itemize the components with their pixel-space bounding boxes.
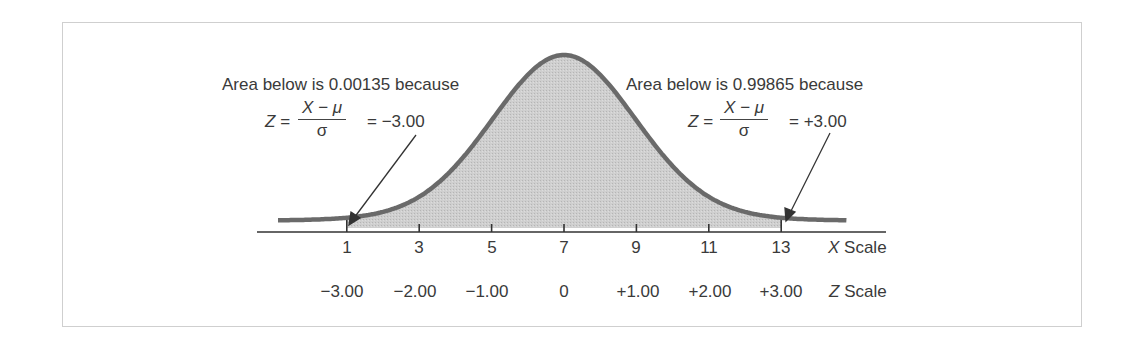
z-tick-label: −2.00 [393, 282, 436, 302]
x-tick-label: 3 [414, 238, 423, 258]
z-scale-title: Z Scale [829, 282, 887, 302]
normal-curve-plot [0, 0, 1147, 351]
x-tick-label: 13 [772, 238, 791, 258]
z-tick-label: +2.00 [688, 282, 731, 302]
z-tick-label: −3.00 [320, 282, 363, 302]
x-scale-var: X [828, 238, 839, 257]
right-z-fraction: X − μ σ [720, 98, 768, 141]
x-tick-label: 11 [700, 238, 718, 258]
z-scale-word: Scale [844, 282, 887, 301]
left-z-lhs: Z = [265, 112, 290, 132]
z-scale-var: Z [829, 282, 839, 301]
z-tick-label: +3.00 [759, 282, 802, 302]
x-tick-label: 1 [342, 238, 351, 258]
right-numerator: X − μ [720, 98, 768, 120]
left-annotation-text: Area below is 0.00135 because [222, 75, 459, 95]
z-tick-label: 0 [559, 282, 568, 302]
x-scale-title: X Scale [828, 238, 887, 258]
right-z-lhs: Z = [688, 112, 713, 132]
right-z-value: = +3.00 [789, 112, 847, 132]
z-tick-label: −1.00 [465, 282, 508, 302]
right-annotation-text: Area below is 0.99865 because [626, 75, 863, 95]
x-scale-word: Scale [844, 238, 887, 257]
z-tick-label: +1.00 [616, 282, 659, 302]
x-tick-label: 5 [487, 238, 496, 258]
x-tick-label: 9 [631, 238, 640, 258]
left-denominator: σ [298, 120, 346, 141]
right-arrow [785, 133, 830, 221]
x-tick-label: 7 [559, 238, 568, 258]
right-denominator: σ [720, 120, 768, 141]
left-z-fraction: X − μ σ [298, 98, 346, 141]
left-z-value: = −3.00 [367, 112, 425, 132]
left-numerator: X − μ [298, 98, 346, 120]
